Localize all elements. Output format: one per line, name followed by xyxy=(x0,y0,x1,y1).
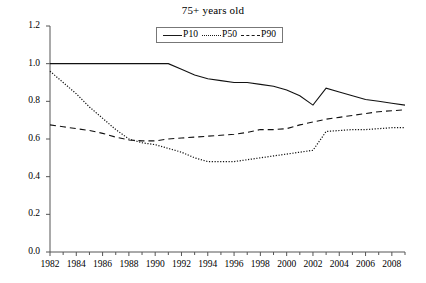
x-axis-label: 2008 xyxy=(377,260,407,270)
y-axis-label: 0.4 xyxy=(14,172,40,182)
y-axis-label: 1.0 xyxy=(14,59,40,69)
chart-axes xyxy=(46,26,405,256)
y-axis-label: 0.8 xyxy=(14,96,40,106)
chart-container: 75+ years old P10 P50 P90 0.00.20.40.60.… xyxy=(0,0,426,283)
y-axis-label: 0.2 xyxy=(14,209,40,219)
plot-area xyxy=(0,0,426,283)
y-axis-label: 0.0 xyxy=(14,247,40,257)
y-axis-label: 0.6 xyxy=(14,134,40,144)
series-line-p50 xyxy=(50,71,405,161)
series-line-p90 xyxy=(50,110,405,141)
y-axis-label: 1.2 xyxy=(14,21,40,31)
series-line-p10 xyxy=(50,64,405,105)
chart-series xyxy=(50,64,405,162)
